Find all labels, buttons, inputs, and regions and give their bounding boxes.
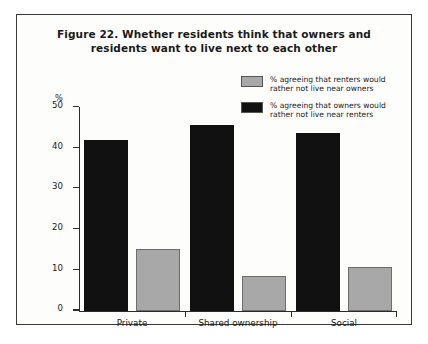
y-axis-tick-label: 50 xyxy=(52,100,63,110)
x-axis-category-label: Private xyxy=(79,318,185,328)
y-axis-tick-label: 40 xyxy=(52,141,63,151)
figure-title-line1: Figure 22. Whether residents think that … xyxy=(17,27,411,41)
x-axis-category-label: Shared ownership xyxy=(185,318,291,328)
figure-title-line2: residents want to live next to each othe… xyxy=(17,41,411,55)
x-axis-tick xyxy=(291,312,292,317)
x-axis-tick xyxy=(396,312,397,317)
y-axis-tick-label: 10 xyxy=(52,263,63,273)
y-axis-tick-label: 30 xyxy=(52,181,63,191)
legend-label-renters: % agreeing that renters would rather not… xyxy=(270,75,386,94)
plot-area: 01020304050 PrivateShared ownershipSocia… xyxy=(79,107,397,312)
bar xyxy=(296,133,340,310)
figure-frame: Figure 22. Whether residents think that … xyxy=(16,14,412,325)
bar xyxy=(190,125,234,310)
bar-group: Social xyxy=(291,106,397,311)
figure-title: Figure 22. Whether residents think that … xyxy=(17,27,411,55)
y-axis-tick-label: 0 xyxy=(58,303,63,313)
x-axis-tick xyxy=(185,312,186,317)
legend-label-renters-line2: rather not live near owners xyxy=(270,84,374,93)
bar xyxy=(242,276,286,311)
bar xyxy=(136,249,180,311)
bar xyxy=(84,140,128,311)
y-axis-tick-label: 20 xyxy=(52,222,63,232)
bar-group: Shared ownership xyxy=(185,106,291,311)
bar-group: Private xyxy=(79,106,185,311)
x-axis-line xyxy=(79,311,397,312)
legend-swatch-gray xyxy=(241,76,263,87)
bar xyxy=(348,267,392,311)
legend-item-renters: % agreeing that renters would rather not… xyxy=(241,75,407,94)
x-axis-category-label: Social xyxy=(291,318,397,328)
legend-label-renters-line1: % agreeing that renters would xyxy=(270,75,386,84)
